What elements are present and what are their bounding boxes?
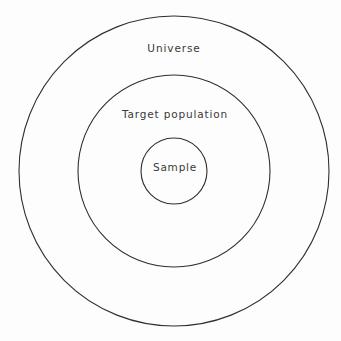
- nested-circles-diagram: Universe Target population Sample: [0, 0, 341, 341]
- label-sample: Sample: [153, 162, 197, 173]
- label-target-population: Target population: [122, 109, 228, 120]
- label-universe: Universe: [147, 43, 200, 54]
